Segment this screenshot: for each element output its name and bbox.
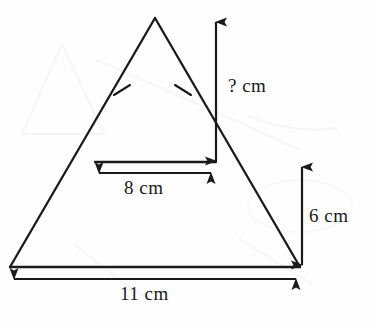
tick-mark-right-icon bbox=[175, 85, 191, 95]
label-base-width: 11 cm bbox=[120, 284, 169, 303]
triangle-right-side bbox=[155, 18, 300, 267]
triangle-left-side bbox=[10, 18, 155, 267]
congruence-tick-marks bbox=[114, 85, 191, 95]
label-lower-height: 6 cm bbox=[309, 206, 348, 225]
label-unknown-height: ? cm bbox=[228, 76, 266, 95]
diagram-canvas bbox=[0, 0, 372, 324]
geometry-diagram: ? cm 8 cm 6 cm 11 cm bbox=[0, 0, 372, 324]
label-top-width: 8 cm bbox=[124, 178, 163, 197]
triangle-outline bbox=[10, 18, 300, 267]
